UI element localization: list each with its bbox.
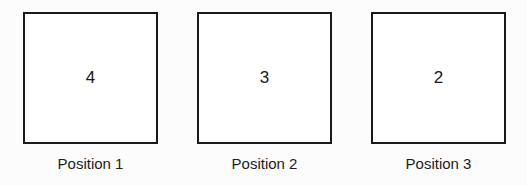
position-group-1: 4 Position 1: [23, 12, 158, 144]
position-box-value-2: 3: [199, 69, 330, 86]
position-label-2: Position 2: [189, 155, 340, 173]
position-group-3: 2 Position 3: [371, 12, 506, 144]
position-box-1[interactable]: 4: [23, 12, 158, 144]
position-box-2[interactable]: 3: [197, 12, 332, 144]
position-label-3: Position 3: [363, 155, 514, 173]
position-box-value-3: 2: [373, 69, 504, 86]
position-group-2: 3 Position 2: [197, 12, 332, 144]
positions-diagram: 4 Position 1 3 Position 2 2 Position 3: [0, 0, 527, 185]
position-box-value-1: 4: [25, 69, 156, 86]
position-label-1: Position 1: [15, 155, 166, 173]
position-box-3[interactable]: 2: [371, 12, 506, 144]
